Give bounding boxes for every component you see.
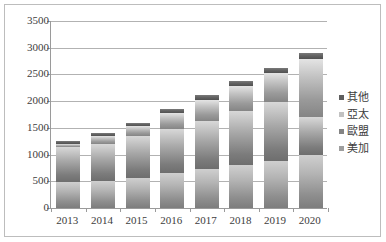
y-axis-label-3500: 3500 — [27, 15, 49, 26]
bar-segment[interactable] — [195, 100, 219, 121]
legend-swatch-icon — [339, 146, 344, 151]
bar-segment[interactable] — [91, 181, 115, 208]
bar-group[interactable] — [299, 21, 323, 208]
bar-segment[interactable] — [160, 129, 184, 173]
bar-segment[interactable] — [195, 121, 219, 169]
legend-swatch-icon — [339, 95, 344, 100]
bar-segment[interactable] — [56, 141, 80, 144]
bar-group[interactable] — [229, 21, 253, 208]
legend-item[interactable]: 其他 — [339, 89, 385, 106]
bar-segment[interactable] — [160, 173, 184, 208]
x-tick-mark — [224, 208, 225, 212]
bar-segment[interactable] — [195, 169, 219, 208]
bar-segment[interactable] — [91, 136, 115, 144]
bar-segment[interactable] — [56, 144, 80, 147]
bar-segment[interactable] — [195, 95, 219, 99]
legend-label: 亞太 — [347, 109, 369, 120]
y-axis-label-0: 0 — [44, 202, 50, 213]
bar-segment[interactable] — [264, 102, 288, 161]
bar-segment[interactable] — [299, 117, 323, 154]
bar-segment[interactable] — [126, 136, 150, 177]
bar-segment[interactable] — [229, 86, 253, 111]
chart-frame: 0500100015002000250030003500 20132014201… — [4, 4, 381, 237]
bar-segment[interactable] — [299, 53, 323, 59]
legend-item[interactable]: 歐盟 — [339, 123, 385, 140]
bar-segment[interactable] — [229, 165, 253, 208]
y-axis-label-2500: 2500 — [27, 68, 49, 79]
bar-segment[interactable] — [126, 126, 150, 136]
x-tick-mark — [190, 208, 191, 212]
y-axis-label-2000: 2000 — [27, 95, 49, 106]
plot-inner — [50, 21, 327, 208]
x-tick-mark — [86, 208, 87, 212]
bar-segment[interactable] — [229, 111, 253, 165]
chart-legend: 其他亞太歐盟美加 — [339, 89, 385, 157]
bar-segment[interactable] — [56, 182, 80, 208]
legend-label: 歐盟 — [347, 126, 369, 137]
y-axis-label-3000: 3000 — [27, 42, 49, 53]
bar-segment[interactable] — [264, 73, 288, 102]
bar-group[interactable] — [160, 21, 184, 208]
bar-segment[interactable] — [160, 109, 184, 113]
bar-segment[interactable] — [56, 147, 80, 182]
bar-group[interactable] — [126, 21, 150, 208]
x-tick-mark — [120, 208, 121, 212]
bar-group[interactable] — [91, 21, 115, 208]
x-tick-mark — [155, 208, 156, 212]
y-axis-label-500: 500 — [33, 175, 50, 186]
bar-segment[interactable] — [91, 144, 115, 181]
bar-segment[interactable] — [160, 113, 184, 129]
plot-area — [50, 21, 327, 208]
bar-segment[interactable] — [91, 133, 115, 136]
bar-group[interactable] — [56, 21, 80, 208]
y-axis-label-1000: 1000 — [27, 149, 49, 160]
bar-series-container — [51, 21, 327, 208]
legend-label: 其他 — [347, 92, 369, 103]
bar-segment[interactable] — [299, 59, 323, 117]
legend-swatch-icon — [339, 129, 344, 134]
x-tick-mark — [51, 208, 52, 212]
y-axis-label-1500: 1500 — [27, 122, 49, 133]
bar-segment[interactable] — [264, 161, 288, 208]
legend-item[interactable]: 亞太 — [339, 106, 385, 123]
x-tick-mark — [328, 208, 329, 212]
bar-segment[interactable] — [299, 155, 323, 208]
x-tick-mark — [293, 208, 294, 212]
bar-segment[interactable] — [126, 178, 150, 208]
x-axis-label-2020: 2020 — [290, 215, 330, 226]
bar-group[interactable] — [195, 21, 219, 208]
bar-segment[interactable] — [126, 123, 150, 126]
x-tick-mark — [259, 208, 260, 212]
legend-label: 美加 — [347, 143, 369, 154]
bar-group[interactable] — [264, 21, 288, 208]
legend-item[interactable]: 美加 — [339, 140, 385, 157]
bar-segment[interactable] — [229, 81, 253, 86]
legend-swatch-icon — [339, 112, 344, 117]
bar-segment[interactable] — [264, 68, 288, 73]
